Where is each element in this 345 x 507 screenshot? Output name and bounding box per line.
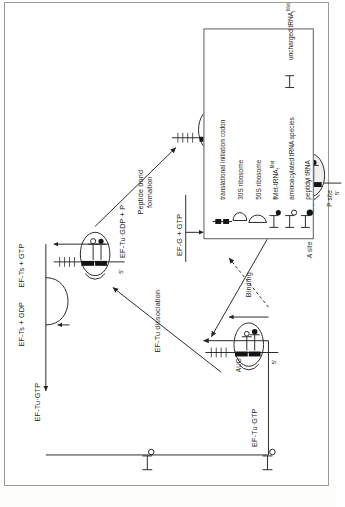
uncharged-trna-icon: [281, 64, 301, 90]
label-ef-ts-gdp: EF-Ts + GDP: [18, 301, 27, 346]
legend-label-50s: 50S ribosome: [254, 159, 261, 199]
legend-box: translational initiation codon 30S ribos…: [203, 28, 313, 239]
legend-label-uncharged-trna: uncharged tRNAfMet: [285, 3, 295, 60]
diagram-stage: 5' 5': [10, 17, 325, 490]
label-a-site: A site: [305, 241, 312, 257]
50s-ribosome-icon: [247, 204, 267, 230]
legend-item-30s: 30S ribosome: [230, 159, 250, 230]
aminoacyl-trna-symbol-incoming: [258, 439, 282, 472]
legend-label-aminoacyl-trna: aminoacylated tRNA species: [287, 117, 294, 200]
peptidyl-trna-icon: [297, 204, 317, 230]
legend-label-fmet-trna: fMet-tRNAfMet: [270, 160, 280, 199]
legend-label-initiation-codon: translational initiation codon: [218, 119, 225, 199]
legend-label-30s: 30S ribosome: [236, 159, 243, 199]
svg-text:5': 5': [271, 359, 277, 363]
label-ef-tu-gtp-top: EF-Tu·GTP: [34, 382, 43, 421]
label-peptide-bond-formation: Peptide bond formation: [136, 169, 154, 214]
legend-item-peptidyl-trna: peptidyl tRNA: [297, 160, 317, 230]
svg-text:5': 5': [117, 269, 123, 273]
legend-item-50s: 50S ribosome: [247, 159, 267, 230]
label-p-site: P site: [325, 190, 332, 207]
label-ef-g-gtp: EF-G + GTP: [175, 213, 184, 255]
legend-item-uncharged-trna: uncharged tRNAfMet: [281, 3, 301, 90]
label-ef-ts-gtp: EF-Ts + GTP: [18, 243, 27, 287]
label-ef-tu-gtp-left: EF-Tu·GTP: [250, 408, 259, 447]
30s-ribosome-icon: [230, 204, 250, 230]
label-ef-tu-dissociation: EF-Tu dissociation: [154, 289, 163, 352]
initiation-codon-icon: [212, 204, 232, 230]
ribosome-complex-ef-tu-dissociation: 5': [51, 218, 128, 287]
legend-item-initiation-codon: translational initiation codon: [212, 119, 232, 230]
label-binding: Binding: [244, 272, 253, 297]
legend-label-peptidyl-trna: peptidyl tRNA: [303, 160, 310, 200]
label-aug-binding: AUG: [234, 358, 241, 372]
label-ef-tu-gdp-p: EF-Tu·GDP + P: [118, 204, 127, 257]
svg-text:5': 5': [334, 190, 340, 194]
uncharged-trna-symbol-spine: [138, 443, 160, 473]
